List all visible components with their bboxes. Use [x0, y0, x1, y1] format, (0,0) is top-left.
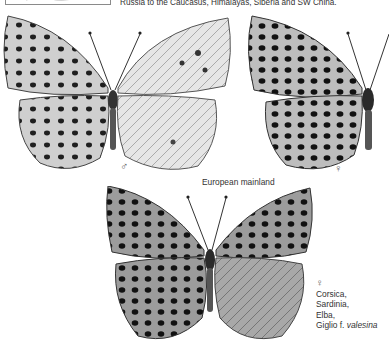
- male-butterfly-illustration: [0, 8, 235, 176]
- female-mainland-butterfly-illustration: [244, 10, 389, 178]
- female-valesina-butterfly-illustration: [104, 186, 316, 346]
- island-line-giglio: Giglio f. valesina: [316, 320, 377, 331]
- island-line-elba: Elba,: [316, 310, 377, 321]
- island-line-sardinia: Sardinia,: [316, 299, 377, 310]
- giglio-prefix: Giglio f.: [316, 320, 347, 330]
- distribution-map: [5, 0, 111, 5]
- island-caption: ♀ Corsica, Sardinia, Elba, Giglio f. val…: [316, 278, 377, 331]
- male-symbol: ♂: [120, 160, 128, 172]
- range-description: Russia to the Caucasus, Himalayas, Siber…: [120, 0, 337, 7]
- form-name: valesina: [347, 320, 378, 330]
- female-symbol-mainland: ♀: [334, 162, 342, 174]
- island-line-corsica: Corsica,: [316, 289, 377, 300]
- female-symbol-island: ♀: [316, 278, 377, 289]
